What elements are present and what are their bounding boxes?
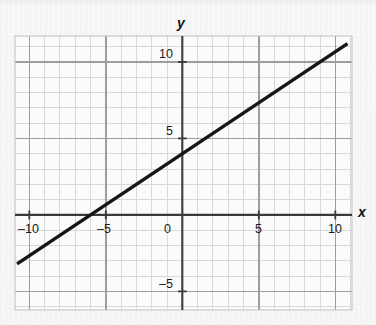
y-axis-label: y (177, 15, 185, 31)
x-tick-label-neg10: –10 (18, 222, 39, 236)
y-tick-label-10: 10 (159, 47, 173, 61)
x-axis-label: x (358, 204, 366, 220)
x-tick-label-5: 5 (255, 222, 262, 236)
x-tick-label-0: 0 (164, 222, 171, 236)
coordinate-plane-graph (0, 0, 376, 325)
y-tick-label-neg5: –5 (159, 277, 173, 291)
x-tick-label-neg5: –5 (97, 222, 111, 236)
x-tick-label-10: 10 (328, 222, 342, 236)
y-tick-label-5: 5 (166, 124, 173, 138)
